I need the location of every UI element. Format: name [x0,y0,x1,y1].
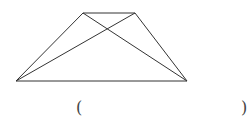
figure-canvas: ( ) [0,0,252,126]
open-parenthesis: ( [76,100,82,116]
diagonal-left [83,13,187,81]
answer-blank[interactable] [88,100,238,118]
close-parenthesis: ) [241,100,247,116]
diagonal-right [16,13,135,81]
trapezoid-outline [16,13,187,81]
